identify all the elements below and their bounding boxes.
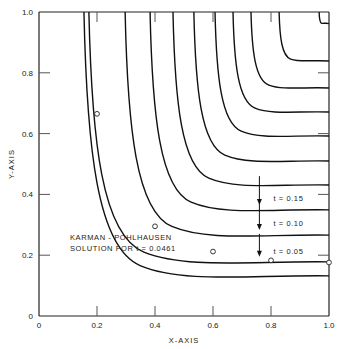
y-axis-title: Y-AXIS [7, 149, 16, 179]
series-line [279, 12, 329, 61]
series-line [319, 12, 329, 24]
series-line [251, 12, 329, 88]
x-tick-label: 0.8 [265, 321, 277, 330]
series-line [215, 12, 329, 136]
data-point-marker [95, 111, 100, 116]
x-tick-label: 0.4 [149, 321, 161, 330]
x-tick-label: 0.6 [207, 321, 219, 330]
x-tick-label: 0 [37, 321, 42, 330]
series-line [233, 12, 329, 112]
y-tick-label: 0.4 [22, 190, 34, 199]
y-tick-label: 0.2 [22, 251, 34, 260]
data-point-marker [153, 224, 158, 229]
chart: 00.20.40.60.81.000.20.40.60.81.0 t = 0.1… [0, 0, 344, 349]
series-line [173, 12, 329, 186]
annotation-label: t = 0.10 [273, 219, 303, 228]
x-tick-label: 0.2 [91, 321, 103, 330]
data-point-marker [211, 249, 216, 254]
y-tick-label: 0.6 [22, 130, 34, 139]
arrow-head-icon [257, 224, 262, 230]
data-point-marker [327, 260, 332, 265]
legend-line-1: KARMAN - POHLHAUSEN [70, 233, 172, 242]
annotation-label: t = 0.05 [273, 247, 303, 256]
annotations: t = 0.15t = 0.10t = 0.05 [257, 176, 304, 257]
x-axis-title: X-AXIS [169, 336, 200, 345]
series-line [194, 12, 329, 161]
x-tick-label: 1.0 [323, 321, 335, 330]
y-tick-label: 0 [29, 312, 34, 321]
axes: 00.20.40.60.81.000.20.40.60.81.0 [22, 8, 335, 330]
y-tick-label: 0.8 [22, 69, 34, 78]
data-point-marker [269, 258, 274, 263]
y-tick-label: 1.0 [22, 8, 34, 17]
annotation-label: t = 0.15 [273, 194, 303, 203]
arrow-head-icon [257, 251, 262, 257]
legend-line-2: SOLUTION FOR t = 0.0461 [70, 244, 176, 253]
